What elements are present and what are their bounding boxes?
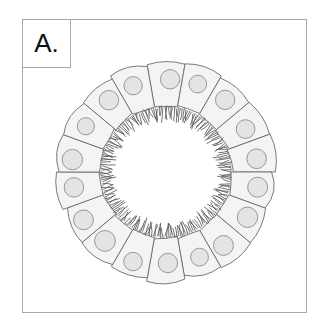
microvillus (174, 106, 175, 120)
cell-nucleus (160, 70, 179, 89)
cell-nucleus (191, 248, 209, 266)
cell-nucleus (77, 118, 94, 135)
cell-nucleus (214, 236, 234, 256)
microvillus (219, 162, 232, 163)
cell-nucleus (124, 252, 143, 271)
microvillus (169, 107, 170, 115)
microvillus (177, 107, 178, 116)
cell-nucleus (64, 178, 83, 197)
microvillus (219, 184, 229, 185)
cell-nucleus (95, 231, 116, 252)
panel-label-box: A. (22, 19, 71, 68)
microvillus (124, 122, 129, 130)
cell-nucleus (74, 210, 94, 230)
cell-nucleus (215, 90, 234, 109)
microvillus (176, 109, 177, 122)
microvillus (137, 113, 138, 121)
cell-nucleus (124, 77, 142, 95)
panel-label-text: A. (34, 30, 59, 58)
cell-nucleus (236, 120, 255, 139)
microvillus (219, 187, 230, 189)
microvillus (161, 228, 163, 238)
microvillus (101, 164, 115, 165)
microvillus (106, 145, 114, 149)
cell-nucleus (62, 149, 82, 169)
cell-nucleus (99, 90, 119, 110)
cell-nucleus (247, 149, 267, 169)
cell-nucleus (158, 253, 177, 272)
figure-root: A. (0, 0, 331, 330)
microvillus (162, 108, 163, 122)
lumen (116, 122, 216, 222)
cell-nucleus (189, 75, 207, 93)
microvillus (219, 151, 228, 152)
microvillus (151, 226, 152, 236)
cell-nucleus (248, 177, 268, 197)
microvillus (173, 228, 175, 237)
microvillus (176, 227, 177, 237)
microvillus (188, 222, 192, 231)
microvillus (220, 160, 228, 164)
microvillus (223, 174, 231, 175)
microvillus (181, 109, 182, 120)
microvillus (178, 109, 180, 122)
cell-nucleus (237, 207, 257, 227)
